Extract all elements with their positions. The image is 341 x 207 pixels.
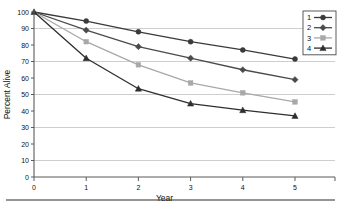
- survival-line-chart: 0102030405060708090100 012345 Year Perce…: [0, 0, 341, 207]
- data-point-circle: [293, 57, 298, 62]
- data-point-square: [241, 91, 246, 96]
- legend-label-1: 1: [307, 13, 311, 22]
- x-tick-label: 2: [136, 184, 140, 191]
- data-point-circle: [136, 29, 141, 34]
- legend-label-3: 3: [307, 34, 311, 43]
- data-point-square: [136, 63, 141, 68]
- y-tick-label: 40: [21, 108, 29, 115]
- x-tick-group: 012345: [32, 177, 335, 191]
- y-tick-label: 20: [21, 141, 29, 148]
- y-axis-title: Percent Alive: [2, 69, 12, 119]
- data-point-square: [84, 39, 89, 44]
- y-tick-label: 90: [21, 25, 29, 32]
- data-point-diamond: [240, 67, 246, 73]
- y-tick-label: 50: [21, 91, 29, 98]
- data-point-triangle: [135, 86, 141, 92]
- series-line-4: [34, 12, 295, 116]
- x-axis-title: Year: [156, 193, 173, 203]
- legend-label-2: 2: [307, 23, 311, 32]
- data-point-circle: [321, 15, 326, 20]
- gridlines-group: [34, 29, 335, 161]
- y-tick-label: 60: [21, 75, 29, 82]
- series-group: [31, 9, 298, 119]
- data-point-diamond: [292, 77, 298, 83]
- legend-label-4: 4: [307, 44, 311, 53]
- y-tick-label: 0: [25, 174, 29, 181]
- x-tick-label: 5: [293, 184, 297, 191]
- chart-legend[interactable]: 1234: [303, 11, 336, 55]
- data-point-square: [188, 81, 193, 86]
- y-tick-label: 80: [21, 42, 29, 49]
- axes-group: [34, 10, 335, 177]
- data-point-square: [321, 36, 326, 41]
- y-tick-group: 0102030405060708090100: [17, 9, 34, 181]
- data-point-diamond: [83, 27, 89, 33]
- data-point-circle: [240, 47, 245, 52]
- x-tick-label: 3: [189, 184, 193, 191]
- data-point-diamond: [135, 44, 141, 50]
- y-tick-label: 30: [21, 124, 29, 131]
- data-point-diamond: [188, 55, 194, 61]
- x-tick-label: 4: [241, 184, 245, 191]
- data-point-square: [293, 100, 298, 105]
- x-tick-label: 1: [84, 184, 88, 191]
- data-point-circle: [188, 39, 193, 44]
- y-tick-label: 100: [17, 9, 29, 16]
- x-tick-label: 0: [32, 184, 36, 191]
- y-tick-label: 70: [21, 58, 29, 65]
- data-point-circle: [84, 19, 89, 24]
- y-tick-label: 10: [21, 157, 29, 164]
- series-1: [34, 12, 298, 62]
- chart-container: 0102030405060708090100 012345 Year Perce…: [0, 0, 341, 207]
